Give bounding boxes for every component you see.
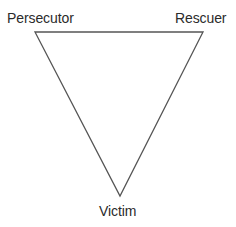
inverted-triangle	[35, 32, 203, 196]
victim-label: Victim	[99, 203, 136, 219]
persecutor-label: Persecutor	[7, 10, 74, 26]
rescuer-label: Rescuer	[175, 10, 226, 26]
drama-triangle-diagram: Persecutor Rescuer Victim	[0, 0, 236, 227]
triangle-shape	[0, 0, 236, 227]
